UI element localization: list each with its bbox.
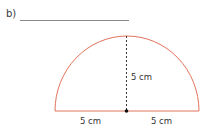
semicircle-diagram: 5 cm 5 cm 5 cm	[0, 0, 212, 133]
right-radius-label: 5 cm	[151, 116, 172, 126]
center-dot	[125, 109, 129, 113]
height-label: 5 cm	[131, 72, 152, 82]
left-radius-label: 5 cm	[80, 116, 101, 126]
semicircle-outline	[55, 36, 199, 111]
